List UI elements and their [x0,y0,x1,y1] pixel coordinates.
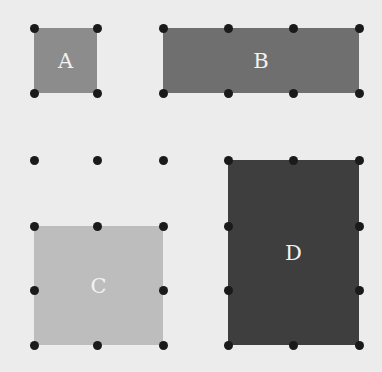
rectangle-a: A [34,28,97,93]
vertex-dot [30,222,39,231]
vertex-dot [224,286,233,295]
vertex-dot [159,286,168,295]
vertex-dot [224,341,233,350]
vertex-dot [30,341,39,350]
vertex-dot [355,341,364,350]
vertex-dot [93,89,102,98]
vertex-dot [355,222,364,231]
label-a: A [58,49,73,73]
vertex-dot [93,24,102,33]
label-b: B [253,49,268,73]
vertex-dot [93,222,102,231]
label-c: C [90,274,106,298]
vertex-dot [224,24,233,33]
diagram-canvas: A B C D [0,0,382,372]
vertex-dot [30,286,39,295]
label-d: D [285,241,302,265]
vertex-dot [355,156,364,165]
vertex-dot [159,24,168,33]
vertex-dot [289,89,298,98]
vertex-dot [355,89,364,98]
rectangle-b: B [163,28,359,93]
vertex-dot [289,156,298,165]
vertex-dot [355,24,364,33]
vertex-dot [224,156,233,165]
vertex-dot [159,89,168,98]
vertex-dot [30,89,39,98]
vertex-dot [93,156,102,165]
vertex-dot [289,341,298,350]
vertex-dot [30,24,39,33]
vertex-dot [224,222,233,231]
vertex-dot [159,222,168,231]
vertex-dot [159,341,168,350]
vertex-dot [355,286,364,295]
vertex-dot [30,156,39,165]
rectangle-c: C [34,226,163,345]
vertex-dot [289,24,298,33]
vertex-dot [224,89,233,98]
vertex-dot [159,156,168,165]
rectangle-d: D [228,160,359,345]
vertex-dot [93,341,102,350]
